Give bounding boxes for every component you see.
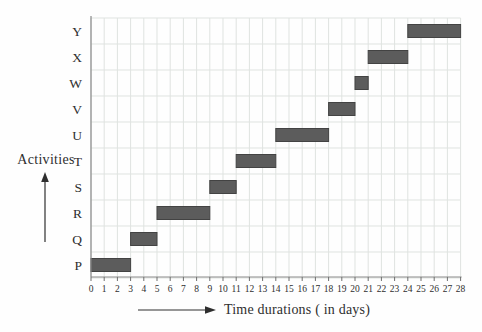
x-tick-label: 10 [218, 284, 228, 294]
y-axis-label-X: X [72, 50, 82, 65]
x-axis-title: Time durations ( in days) [224, 302, 370, 318]
gantt-bar-Y [408, 25, 461, 38]
x-axis-title-group: Time durations ( in days) [138, 302, 370, 318]
x-tick-label: 21 [363, 284, 373, 294]
x-tick-label: 15 [284, 284, 294, 294]
x-tick-label: 23 [390, 284, 400, 294]
y-axis-label-S: S [74, 180, 82, 195]
x-tick-label: 2 [115, 284, 120, 294]
x-tick-label: 0 [89, 284, 94, 294]
x-tick-label: 25 [416, 284, 426, 294]
x-tick-label: 17 [311, 284, 321, 294]
x-tick-label: 20 [350, 284, 360, 294]
x-tick-label: 13 [258, 284, 268, 294]
x-tick-label: 19 [337, 284, 347, 294]
gantt-bar-W [355, 77, 368, 90]
x-tick-label: 26 [429, 284, 439, 294]
gantt-bar-V [329, 103, 355, 116]
gantt-bar-S [210, 181, 236, 194]
y-axis-label-R: R [73, 206, 82, 221]
x-tick-label: 22 [377, 284, 387, 294]
x-tick-label: 3 [128, 284, 133, 294]
up-arrow-icon [39, 172, 51, 244]
gantt-bar-X [368, 51, 408, 64]
x-tick-label: 7 [181, 284, 186, 294]
x-tick-label: 11 [232, 284, 241, 294]
gantt-chart-figure: 0123456789101112131415161718192021222324… [0, 0, 482, 332]
x-tick-label: 1 [102, 284, 107, 294]
right-arrow-icon [138, 304, 216, 316]
y-axis-label-Y: Y [72, 24, 82, 39]
y-axis-title: Activities [14, 152, 78, 168]
x-tick-label: 6 [168, 284, 173, 294]
x-tick-label: 14 [271, 284, 281, 294]
x-tick-label: 18 [324, 284, 334, 294]
x-tick-label: 9 [207, 284, 212, 294]
x-tick-label: 16 [297, 284, 307, 294]
y-axis-label-W: W [69, 76, 82, 91]
x-tick-label: 28 [456, 284, 466, 294]
y-axis-label-Q: Q [72, 232, 82, 247]
x-tick-label: 8 [194, 284, 199, 294]
gantt-bar-T [236, 155, 276, 168]
gantt-bar-R [157, 207, 210, 220]
x-tick-label: 5 [155, 284, 160, 294]
y-axis-label-V: V [72, 102, 82, 117]
x-tick-label: 24 [403, 284, 413, 294]
gantt-bar-Q [131, 233, 157, 246]
gantt-bar-P [91, 259, 131, 272]
x-tick-label: 12 [245, 284, 255, 294]
x-tick-label: 4 [141, 284, 146, 294]
x-tick-label: 27 [443, 284, 453, 294]
gantt-bar-U [276, 129, 329, 142]
y-axis-label-U: U [72, 128, 82, 143]
y-axis-label-P: P [74, 258, 82, 273]
